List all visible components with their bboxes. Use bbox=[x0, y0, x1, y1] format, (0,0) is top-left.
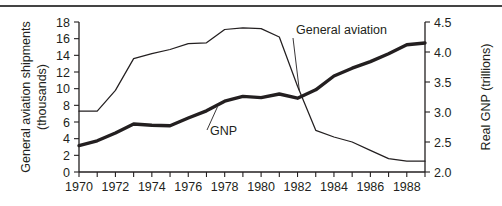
annotation-general-aviation: General aviation bbox=[293, 23, 387, 91]
annotation-gnp: GNP bbox=[207, 107, 237, 138]
left-tick-label: 4 bbox=[63, 132, 70, 146]
left-axis-title-line1: General aviation shipments bbox=[19, 21, 33, 172]
left-tick-label: 6 bbox=[63, 116, 70, 130]
right-tick-label: 4.0 bbox=[434, 46, 451, 60]
right-tick-label: 2.5 bbox=[434, 136, 451, 150]
right-axis-tick-labels: 2.02.53.03.54.04.5 bbox=[434, 16, 451, 180]
right-axis: 2.02.53.03.54.04.5 Real GNP (trillions) bbox=[425, 16, 493, 180]
x-tick-label: 1986 bbox=[356, 180, 384, 194]
left-tick-label: 16 bbox=[56, 32, 70, 46]
right-axis-title: Real GNP (trillions) bbox=[479, 44, 493, 151]
left-tick-label: 0 bbox=[63, 166, 70, 180]
series-line-general-aviation bbox=[79, 28, 425, 161]
left-axis-title-line2: (thousands) bbox=[35, 64, 49, 130]
x-tick-label: 1976 bbox=[174, 180, 202, 194]
right-tick-label: 3.0 bbox=[434, 106, 451, 120]
left-tick-label: 18 bbox=[56, 16, 70, 30]
left-axis-tick-labels: 024681012141618 bbox=[56, 16, 70, 180]
x-axis: 1970197219741976197819801982198419861988 bbox=[65, 172, 425, 194]
left-axis: 024681012141618 General aviation shipmen… bbox=[19, 16, 79, 180]
right-tick-label: 4.5 bbox=[434, 16, 451, 30]
left-axis-ticks bbox=[74, 22, 79, 172]
x-tick-label: 1970 bbox=[65, 180, 93, 194]
annotation-label-general-aviation: General aviation bbox=[296, 23, 387, 37]
annotation-label-gnp: GNP bbox=[210, 124, 237, 138]
left-tick-label: 14 bbox=[56, 49, 70, 63]
x-tick-label: 1988 bbox=[393, 180, 421, 194]
right-tick-label: 3.5 bbox=[434, 76, 451, 90]
x-tick-label: 1972 bbox=[102, 180, 130, 194]
left-tick-label: 10 bbox=[56, 82, 70, 96]
x-tick-label: 1978 bbox=[211, 180, 239, 194]
x-tick-label: 1982 bbox=[284, 180, 312, 194]
left-tick-label: 2 bbox=[63, 149, 70, 163]
x-tick-label: 1984 bbox=[320, 180, 348, 194]
x-tick-label: 1974 bbox=[138, 180, 166, 194]
left-tick-label: 12 bbox=[56, 66, 70, 80]
right-tick-label: 2.0 bbox=[434, 166, 451, 180]
x-tick-label: 1980 bbox=[247, 180, 275, 194]
x-axis-ticks bbox=[79, 172, 425, 177]
left-tick-label: 8 bbox=[63, 99, 70, 113]
chart-canvas: 024681012141618 General aviation shipmen… bbox=[0, 0, 502, 206]
x-axis-tick-labels: 1970197219741976197819801982198419861988 bbox=[65, 180, 421, 194]
general-aviation-gnp-chart: 024681012141618 General aviation shipmen… bbox=[0, 0, 502, 206]
series-line-gnp bbox=[79, 43, 425, 146]
